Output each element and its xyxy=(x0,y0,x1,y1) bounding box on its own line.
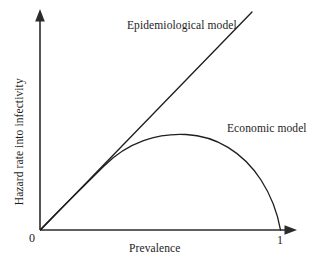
annotation-epidemiological-model: Epidemiological model xyxy=(127,20,237,32)
figure-container: Epidemiological model Economic model Pre… xyxy=(0,0,312,266)
x-axis-tick-origin: 0 xyxy=(29,232,35,244)
right-arrow-icon xyxy=(285,225,298,235)
y-axis-label: Hazard rate into infectivity xyxy=(14,67,26,217)
x-axis-label: Prevalence xyxy=(129,243,180,255)
annotation-economic-model: Economic model xyxy=(227,123,307,135)
x-axis-tick-max: 1 xyxy=(277,234,283,246)
up-arrow-icon xyxy=(35,9,45,22)
series-economic-model xyxy=(41,134,281,230)
